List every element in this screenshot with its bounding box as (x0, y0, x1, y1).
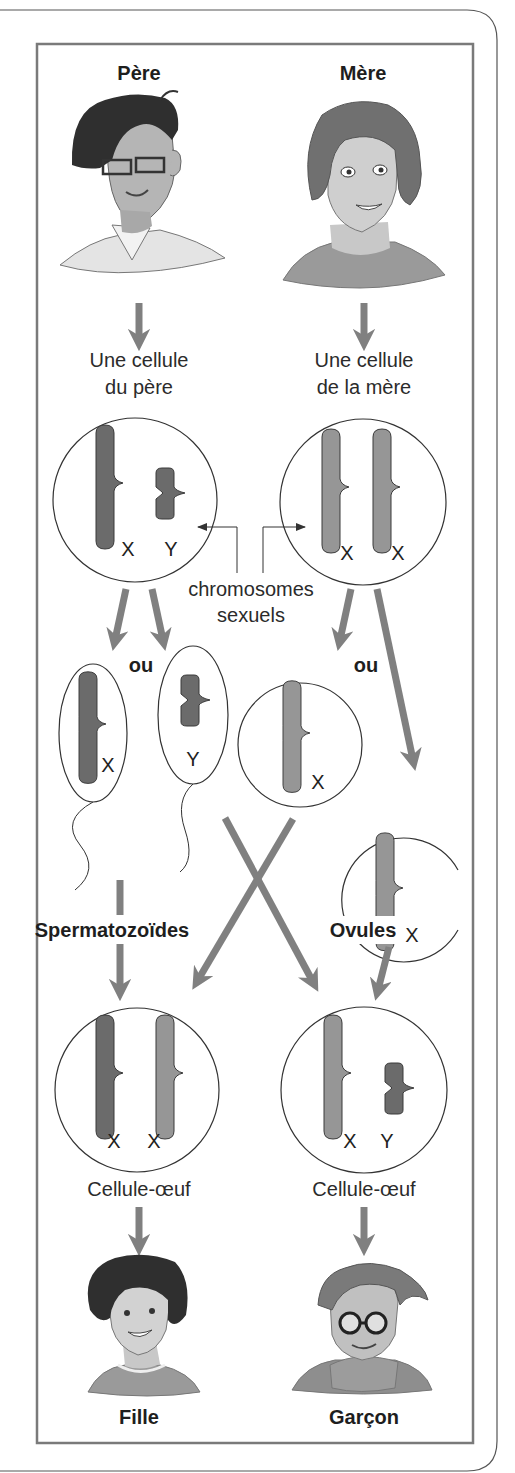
boy-portrait (292, 1263, 432, 1394)
mother-cell-caption-line2: de la mère (317, 376, 412, 398)
sperm-y: Y (158, 646, 228, 872)
zygote-girl-x2-label: X (147, 1130, 160, 1152)
ovum-1-x-label: X (311, 771, 324, 793)
father-label: Père (117, 62, 160, 84)
boy-label: Garçon (329, 1406, 399, 1428)
mother-cell: X X (280, 419, 446, 585)
sperm-x: X (59, 664, 127, 890)
zygote-girl-caption: Cellule-œuf (87, 1178, 191, 1200)
father-portrait (60, 91, 225, 273)
sex-chromosomes-label-line1: chromosomes (188, 578, 314, 600)
sex-determination-diagram: Père Mère Une cellule du père Une cellul… (0, 0, 515, 1473)
ovum-2-x-label: X (405, 924, 418, 946)
arrow-father-to-sperm-y (152, 589, 163, 640)
father-cell-x-label: X (121, 538, 134, 560)
sperm-y-label: Y (186, 748, 199, 770)
girl-portrait (88, 1255, 200, 1396)
sperm-label: Spermatozoïdes (35, 919, 189, 941)
zygote-boy-x-label: X (343, 1130, 356, 1152)
arrow-mother-to-ovum-2 (377, 589, 413, 760)
mother-cell-caption-line1: Une cellule (315, 349, 414, 371)
father-cell-caption-line2: du père (105, 376, 173, 398)
mother-cell-x2-label: X (391, 542, 404, 564)
zygote-boy-caption: Cellule-œuf (312, 1178, 416, 1200)
father-cell-y-label: Y (164, 538, 177, 560)
or-label-sperm: ou (129, 654, 153, 676)
mother-cell-x1-label: X (340, 542, 353, 564)
girl-label: Fille (119, 1406, 159, 1428)
zygote-boy-y-label: Y (380, 1130, 393, 1152)
ovum-1: X (238, 681, 362, 807)
mother-label: Mère (340, 62, 387, 84)
sex-chromosomes-label-line2: sexuels (217, 604, 285, 626)
father-cell: X Y (53, 418, 217, 582)
ova-label: Ovules (330, 919, 397, 941)
zygote-girl-x1-label: X (107, 1130, 120, 1152)
father-cell-caption-line1: Une cellule (90, 349, 189, 371)
arrow-sperm-y-to-boy (225, 818, 313, 982)
or-label-ova: ou (354, 654, 378, 676)
arrow-ovum-1-to-girl (198, 819, 293, 980)
sperm-x-label: X (101, 754, 114, 776)
zygote-boy: X Y (281, 1007, 447, 1173)
arrow-father-to-sperm-x (115, 589, 126, 640)
arrow-mother-to-ovum-1 (340, 589, 351, 640)
mother-portrait (283, 102, 445, 288)
zygote-girl: X X (55, 1008, 219, 1172)
